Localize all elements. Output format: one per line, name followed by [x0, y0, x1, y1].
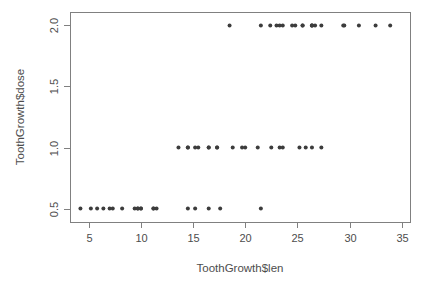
- data-point: [268, 23, 272, 27]
- y-axis-title: ToothGrowth$dose: [14, 69, 26, 166]
- data-point: [136, 207, 140, 211]
- data-point: [388, 23, 392, 27]
- data-point: [301, 23, 305, 27]
- x-tick-label: 35: [396, 232, 408, 244]
- data-point: [176, 146, 180, 150]
- data-point: [374, 23, 378, 27]
- data-point: [95, 207, 99, 211]
- x-axis-ticks: 5101520253035: [86, 222, 408, 244]
- data-point: [269, 146, 273, 150]
- plot-frame: [71, 13, 411, 223]
- data-point: [231, 146, 235, 150]
- data-point: [297, 146, 301, 150]
- data-point: [259, 207, 263, 211]
- scatter-plot: 5101520253035 0.51.01.52.0 ToothGrowth$l…: [0, 0, 424, 290]
- data-point: [151, 207, 155, 211]
- data-point: [357, 23, 361, 27]
- x-tick-label: 5: [86, 232, 92, 244]
- data-point: [310, 146, 314, 150]
- r-plot-canvas: 5101520253035 0.51.01.52.0 ToothGrowth$l…: [0, 0, 424, 290]
- data-point: [186, 207, 190, 211]
- x-tick-label: 10: [135, 232, 147, 244]
- data-point: [207, 146, 211, 150]
- y-tick-label: 1.0: [48, 141, 60, 156]
- data-point: [101, 207, 105, 211]
- x-tick-label: 30: [344, 232, 356, 244]
- data-points-layer: [78, 23, 392, 210]
- data-point: [319, 23, 323, 27]
- y-tick-label: 1.5: [48, 79, 60, 94]
- data-point: [78, 207, 82, 211]
- data-point: [228, 23, 232, 27]
- x-tick-label: 20: [239, 232, 251, 244]
- data-point: [310, 23, 314, 27]
- data-point: [89, 207, 93, 211]
- data-point: [243, 146, 247, 150]
- data-point: [304, 146, 308, 150]
- data-point: [186, 146, 190, 150]
- y-tick-label: 0.5: [48, 202, 60, 217]
- data-point: [319, 146, 323, 150]
- data-point: [256, 146, 260, 150]
- data-point: [293, 23, 297, 27]
- data-point: [259, 23, 263, 27]
- data-point: [196, 146, 200, 150]
- data-point: [215, 146, 219, 150]
- data-point: [281, 146, 285, 150]
- data-point: [341, 23, 345, 27]
- data-point: [207, 207, 211, 211]
- plot-box-border: [71, 13, 411, 223]
- x-axis-title: ToothGrowth$len: [197, 262, 284, 274]
- y-tick-label: 2.0: [48, 18, 60, 33]
- data-point: [108, 207, 112, 211]
- y-axis-ticks: 0.51.01.52.0: [48, 18, 70, 217]
- data-point: [218, 207, 222, 211]
- data-point: [193, 207, 197, 211]
- data-point: [275, 23, 279, 27]
- x-tick-label: 15: [187, 232, 199, 244]
- x-tick-label: 25: [291, 232, 303, 244]
- data-point: [120, 207, 124, 211]
